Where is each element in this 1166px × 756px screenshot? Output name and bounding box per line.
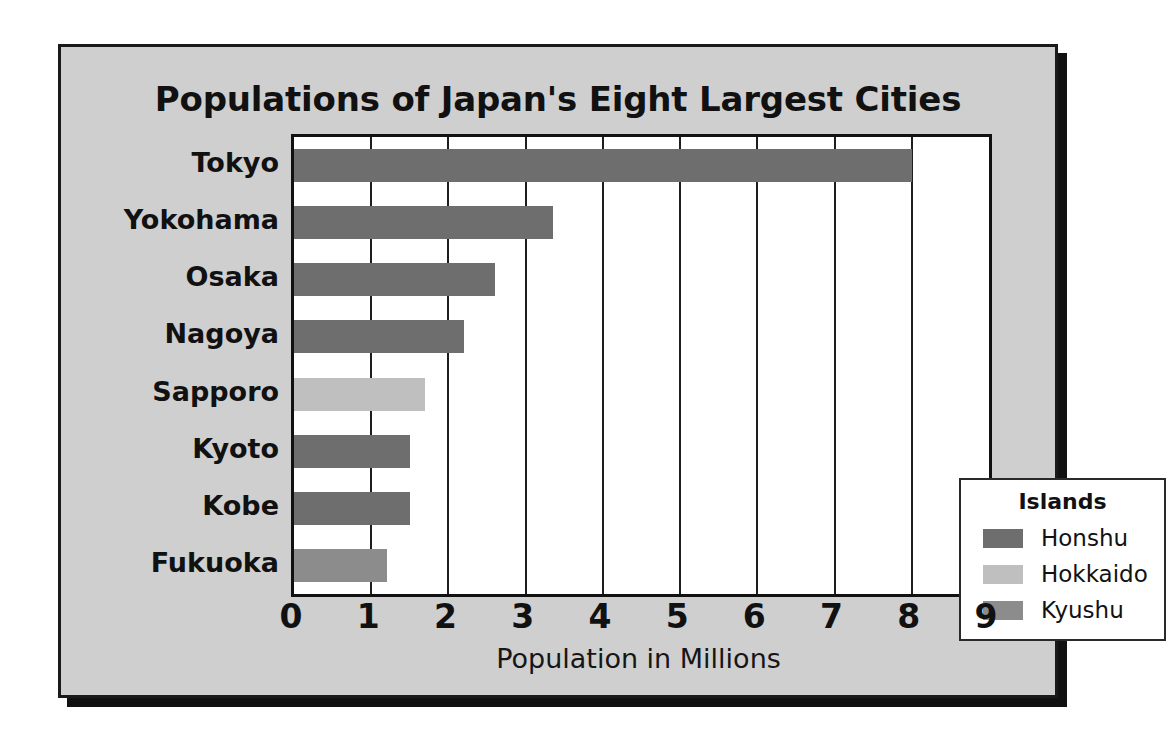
legend-item-honshu: Honshu: [961, 520, 1164, 556]
x-axis-tick-1: 1: [357, 597, 380, 636]
y-axis-label-kyoto: Kyoto: [192, 420, 279, 477]
x-axis-tick-2: 2: [434, 597, 457, 636]
bar-sapporo: [294, 378, 425, 411]
bar-nagoya: [294, 320, 464, 353]
y-axis-category-labels: TokyoYokohamaOsakaNagoyaSapporoKyotoKobe…: [121, 134, 287, 591]
y-axis-label-yokohama: Yokohama: [124, 191, 279, 248]
legend-title: Islands: [961, 489, 1164, 514]
y-axis-label-osaka: Osaka: [186, 248, 279, 305]
legend-label-kyushu: Kyushu: [1041, 597, 1124, 623]
legend-item-hokkaido: Hokkaido: [961, 556, 1164, 592]
bars-layer: [294, 137, 989, 594]
y-axis-label-tokyo: Tokyo: [192, 134, 280, 191]
x-axis-tick-9: 9: [975, 597, 998, 636]
x-axis-tick-6: 6: [743, 597, 766, 636]
figure-panel: Populations of Japan's Eight Largest Cit…: [58, 44, 1058, 698]
y-axis-label-kobe: Kobe: [202, 477, 279, 534]
legend-swatch-hokkaido: [983, 565, 1023, 584]
x-axis-tick-4: 4: [588, 597, 611, 636]
x-axis-tick-8: 8: [897, 597, 920, 636]
bar-osaka: [294, 263, 495, 296]
y-axis-label-sapporo: Sapporo: [152, 363, 279, 420]
bar-fukuoka: [294, 549, 387, 582]
y-axis-label-nagoya: Nagoya: [164, 305, 279, 362]
x-axis-tick-5: 5: [666, 597, 689, 636]
legend-label-hokkaido: Hokkaido: [1041, 561, 1148, 587]
bar-tokyo: [294, 149, 912, 182]
bar-kobe: [294, 492, 410, 525]
x-axis-title: Population in Millions: [291, 643, 986, 674]
legend-swatch-honshu: [983, 529, 1023, 548]
x-axis-tick-3: 3: [511, 597, 534, 636]
chart-title: Populations of Japan's Eight Largest Cit…: [61, 79, 1055, 119]
y-axis-label-fukuoka: Fukuoka: [151, 534, 279, 591]
legend-label-honshu: Honshu: [1041, 525, 1128, 551]
x-axis-tick-7: 7: [820, 597, 843, 636]
plot-area: Islands HonshuHokkaidoKyushu: [291, 134, 992, 597]
bar-yokohama: [294, 206, 553, 239]
x-axis-tick-0: 0: [280, 597, 303, 636]
x-axis-tick-labels: 0123456789: [291, 597, 986, 641]
bar-kyoto: [294, 435, 410, 468]
